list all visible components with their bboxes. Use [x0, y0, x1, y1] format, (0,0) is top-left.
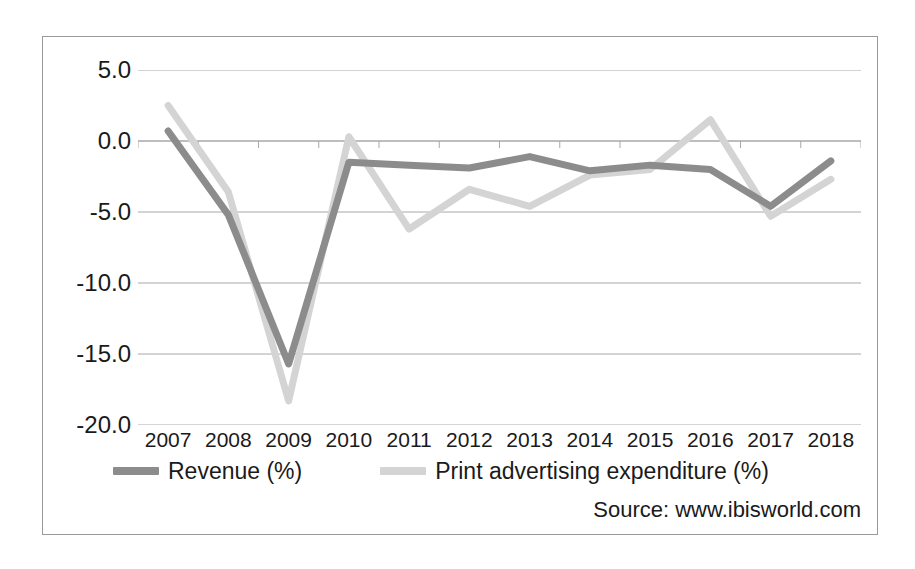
y-tick-label: -15.0	[76, 342, 131, 366]
axis-tick-marks	[138, 141, 861, 148]
plot-area	[138, 70, 861, 425]
legend-label-revenue: Revenue (%)	[168, 460, 302, 483]
y-tick-label: 0.0	[98, 129, 131, 153]
x-tick-label: 2010	[326, 429, 373, 450]
x-tick-label: 2014	[567, 429, 614, 450]
legend-label-print-advertising: Print advertising expenditure (%)	[435, 460, 769, 483]
x-tick-label: 2016	[687, 429, 734, 450]
x-tick-label: 2011	[387, 429, 432, 450]
legend-swatch-print-icon	[380, 467, 426, 475]
legend-item-revenue: Revenue (%)	[113, 460, 302, 483]
source-note: Source: www.ibisworld.com	[593, 499, 861, 521]
y-axis: 5.00.0-5.0-10.0-15.0-20.0	[43, 70, 131, 425]
y-tick-label: -10.0	[76, 271, 131, 295]
series-line-print-advertising	[168, 106, 831, 401]
x-tick-label: 2009	[265, 429, 312, 450]
x-tick-label: 2012	[446, 429, 493, 450]
chart-frame: 5.00.0-5.0-10.0-15.0-20.0 20072008200920…	[42, 36, 878, 535]
chart-legend: Revenue (%) Print advertising expenditur…	[103, 452, 843, 490]
y-tick-label: 5.0	[98, 58, 131, 82]
x-tick-label: 2017	[747, 429, 794, 450]
x-tick-label: 2018	[808, 429, 855, 450]
x-tick-label: 2015	[627, 429, 674, 450]
x-tick-label: 2013	[506, 429, 553, 450]
series-lines	[168, 106, 831, 401]
y-tick-label: -5.0	[90, 200, 131, 224]
legend-swatch-revenue-icon	[113, 467, 159, 475]
x-tick-label: 2008	[205, 429, 252, 450]
plot-svg	[138, 70, 861, 425]
chart-figure: 5.00.0-5.0-10.0-15.0-20.0 20072008200920…	[0, 0, 915, 569]
legend-item-print-advertising: Print advertising expenditure (%)	[380, 460, 769, 483]
x-tick-label: 2007	[145, 429, 192, 450]
y-tick-label: -20.0	[76, 413, 131, 437]
